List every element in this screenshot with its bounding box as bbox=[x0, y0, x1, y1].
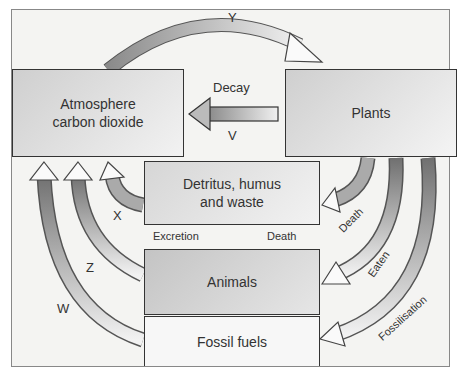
node-detritus-line1: Detritus, humus bbox=[183, 175, 281, 193]
node-plants: Plants bbox=[285, 69, 457, 157]
label-death-center: Death bbox=[267, 230, 296, 242]
node-atmosphere-line1: Atmosphere bbox=[52, 95, 143, 113]
node-detritus-line2: and waste bbox=[183, 193, 281, 211]
node-atmosphere: Atmosphere carbon dioxide bbox=[12, 69, 184, 157]
label-x: X bbox=[113, 208, 122, 223]
arrow-plants-death bbox=[322, 158, 368, 212]
label-y: Y bbox=[228, 10, 237, 25]
label-v: V bbox=[228, 128, 237, 143]
label-decay: Decay bbox=[213, 80, 250, 95]
node-atmosphere-line2: carbon dioxide bbox=[52, 113, 143, 131]
node-detritus: Detritus, humus and waste bbox=[144, 161, 320, 225]
label-excretion: Excretion bbox=[153, 230, 199, 242]
label-z: Z bbox=[86, 260, 94, 275]
arrow-y bbox=[108, 25, 322, 70]
node-plants-label: Plants bbox=[352, 104, 391, 122]
arrow-x bbox=[100, 162, 143, 205]
arrow-decay-v bbox=[189, 98, 278, 130]
node-fossil-fuels: Fossil fuels bbox=[144, 316, 320, 366]
node-animals: Animals bbox=[144, 249, 320, 315]
node-animals-label: Animals bbox=[207, 273, 257, 291]
label-w: W bbox=[57, 301, 69, 316]
node-fossil-fuels-label: Fossil fuels bbox=[197, 333, 267, 351]
